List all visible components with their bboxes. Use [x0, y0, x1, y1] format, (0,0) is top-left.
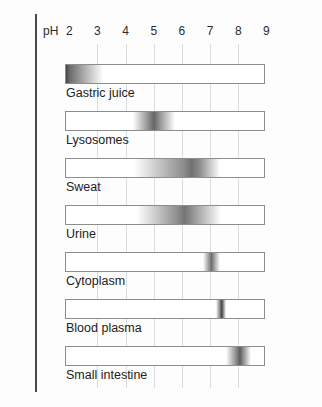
- ph-band-fill: [133, 112, 175, 130]
- ph-band-box: [65, 299, 265, 319]
- ph-band-fill: [216, 300, 226, 318]
- axis-vertical-rule: [35, 14, 37, 392]
- ph-tick-label-6: 6: [179, 24, 186, 38]
- fluid-row-label: Cytoplasm: [66, 274, 125, 288]
- ph-tick-label-4: 4: [122, 24, 129, 38]
- ph-tick-label-5: 5: [150, 24, 157, 38]
- fluid-row-label: Small intestine: [66, 368, 147, 382]
- ph-band-box: [65, 252, 265, 272]
- ph-band-fill: [226, 347, 251, 365]
- ph-tick-label-2: 2: [66, 24, 73, 38]
- ph-scale-figure: pH 23456789 Gastric juiceLysosomesSweatU…: [0, 0, 322, 407]
- fluid-row-label: Sweat: [66, 180, 101, 194]
- ph-tick-label-9: 9: [263, 24, 270, 38]
- ph-band-box: [65, 158, 265, 178]
- ph-scale-header: pH 23456789: [0, 24, 322, 44]
- ph-axis-caption: pH: [43, 24, 59, 38]
- ph-band-box: [65, 346, 265, 366]
- fluid-row-label: Blood plasma: [66, 321, 142, 335]
- ph-band-fill: [137, 206, 222, 224]
- fluid-row-label: Gastric juice: [66, 86, 135, 100]
- ph-tick-label-8: 8: [235, 24, 242, 38]
- ph-tick-label-3: 3: [94, 24, 101, 38]
- ph-band-fill: [134, 159, 220, 177]
- ph-band-box: [65, 64, 265, 84]
- ph-band-fill: [65, 65, 103, 83]
- fluid-row-label: Urine: [66, 227, 96, 241]
- ph-band-box: [65, 111, 265, 131]
- ph-band-box: [65, 205, 265, 225]
- ph-tick-label-7: 7: [207, 24, 214, 38]
- ph-band-fill: [203, 253, 220, 271]
- fluid-row-label: Lysosomes: [66, 133, 129, 147]
